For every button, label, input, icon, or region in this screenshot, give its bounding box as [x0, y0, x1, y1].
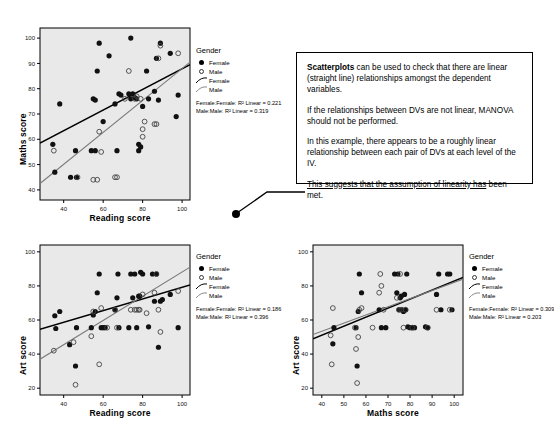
svg-text:100: 100 [177, 401, 188, 407]
svg-text:80: 80 [301, 283, 308, 289]
legend-label: Female [482, 265, 503, 272]
svg-text:60: 60 [301, 317, 308, 323]
svg-text:40: 40 [60, 206, 67, 212]
svg-text:40: 40 [318, 401, 325, 407]
r2-annotation: Female:Female: R² Linear = 0.186 Male:Ma… [196, 306, 268, 321]
legend-item-male-line: Male [196, 85, 268, 93]
callout-underlined-text: This suggests that the assumption of lin… [307, 180, 486, 189]
svg-text:90: 90 [429, 401, 436, 407]
svg-text:60: 60 [363, 401, 370, 407]
r2-male: Male:Male: R² Linear = 0.396 [196, 314, 268, 320]
open-circle-icon [196, 275, 207, 280]
line-grey-icon [469, 292, 480, 299]
legend-label: Male [482, 274, 495, 281]
svg-text:80: 80 [139, 401, 146, 407]
svg-text:100: 100 [25, 249, 36, 255]
legend-label: Female [209, 59, 230, 66]
svg-text:70: 70 [385, 401, 392, 407]
svg-text:100: 100 [298, 249, 309, 255]
svg-text:100: 100 [177, 206, 188, 212]
svg-text:20: 20 [301, 385, 308, 391]
legend-gender: Gender Female Male Female Male Female:Fe… [469, 252, 541, 321]
legend-item-female-line: Female [196, 282, 268, 290]
legend-item-female-line: Female [196, 76, 268, 84]
r2-annotation: Female:Female: R² Linear = 0.221 Male:Ma… [196, 100, 268, 115]
r2-male: Male:Male: R² Linear = 0.203 [469, 314, 541, 320]
svg-text:90: 90 [28, 61, 35, 67]
callout-paragraph-4: This suggests that the assumption of lin… [307, 179, 522, 201]
line-dark-icon [196, 283, 207, 290]
filled-circle-icon [196, 60, 207, 65]
svg-text:60: 60 [28, 317, 35, 323]
callout-connector [225, 178, 305, 223]
svg-text:60: 60 [100, 401, 107, 407]
line-grey-icon [196, 292, 207, 299]
svg-text:60: 60 [100, 206, 107, 212]
svg-text:80: 80 [28, 86, 35, 92]
filled-circle-icon [196, 266, 207, 271]
r2-female: Female:Female: R² Linear = 0.186 [196, 306, 281, 312]
svg-text:20: 20 [28, 385, 35, 391]
legend-item-female-marker: Female [196, 264, 268, 272]
legend-title: Gender [196, 46, 268, 55]
svg-text:40: 40 [60, 401, 67, 407]
svg-text:50: 50 [28, 162, 35, 168]
svg-text:100: 100 [25, 35, 36, 41]
callout-paragraph-3: In this example, there appears to be a r… [307, 136, 522, 170]
callout-paragraph-2: If the relationships between DVs are not… [307, 105, 522, 127]
legend-item-female-marker: Female [469, 264, 541, 272]
legend-item-male-marker: Male [196, 273, 268, 281]
svg-text:40: 40 [28, 187, 35, 193]
open-circle-icon [196, 69, 207, 74]
r2-annotation: Female:Female: R² Linear = 0.309 Male:Ma… [469, 306, 541, 321]
r2-female: Female:Female: R² Linear = 0.221 [196, 100, 281, 106]
filled-circle-icon [469, 266, 480, 271]
legend-label: Male [209, 274, 222, 281]
legend-label: Female [209, 283, 230, 290]
legend-item-male-line: Male [196, 291, 268, 299]
r2-male: Male:Male: R² Linear = 0.319 [196, 108, 268, 114]
svg-text:40: 40 [28, 351, 35, 357]
legend-label: Male [482, 292, 495, 299]
callout-paragraph-1: Scatterplots can be used to check that t… [307, 62, 522, 96]
legend-label: Male [209, 292, 222, 299]
svg-text:70: 70 [28, 111, 35, 117]
callout-bold-lead: Scatterplots [307, 63, 354, 72]
legend-label: Female [209, 265, 230, 272]
legend-item-female-line: Female [469, 282, 541, 290]
legend-title: Gender [469, 252, 541, 261]
legend-label: Male [209, 86, 222, 93]
legend-label: Male [209, 68, 222, 75]
chart-art-vs-reading: Art score Reading score 4060801002040608… [0, 240, 270, 430]
svg-text:80: 80 [28, 283, 35, 289]
legend-item-male-marker: Male [469, 273, 541, 281]
line-dark-icon [469, 283, 480, 290]
legend-item-female-marker: Female [196, 58, 268, 66]
svg-text:80: 80 [407, 401, 414, 407]
chart-art-vs-maths: Art score Maths score 405060708090100204… [273, 240, 543, 430]
line-dark-icon [196, 77, 207, 84]
legend-item-male-marker: Male [196, 67, 268, 75]
svg-text:100: 100 [449, 401, 460, 407]
line-grey-icon [196, 86, 207, 93]
svg-text:50: 50 [341, 401, 348, 407]
legend-gender: Gender Female Male Female Male Female:Fe… [196, 252, 268, 321]
svg-text:80: 80 [139, 206, 146, 212]
svg-text:60: 60 [28, 136, 35, 142]
legend-item-male-line: Male [469, 291, 541, 299]
r2-female: Female:Female: R² Linear = 0.309 [469, 306, 554, 312]
legend-label: Female [209, 77, 230, 84]
legend-label: Female [482, 283, 503, 290]
svg-text:40: 40 [301, 351, 308, 357]
legend-gender: Gender Female Male Female Male Female:Fe… [196, 46, 268, 115]
open-circle-icon [469, 275, 480, 280]
callout-textbox: Scatterplots can be used to check that t… [296, 52, 533, 184]
legend-title: Gender [196, 252, 268, 261]
